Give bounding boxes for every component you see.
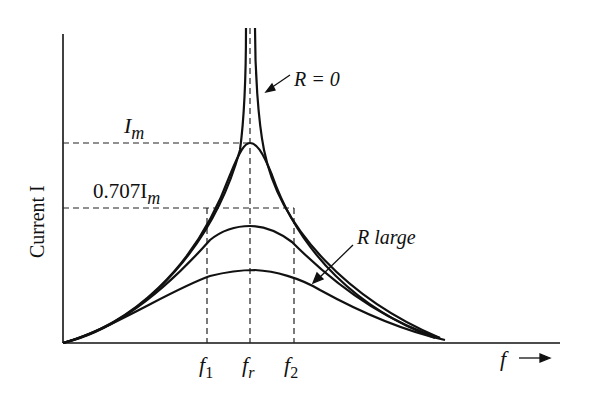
label-im707: 0.707Im	[93, 179, 160, 208]
label-r-zero: R = 0	[293, 68, 340, 90]
resonance-diagram: R = 0 R large Im 0.707Im Current I f1 fr…	[0, 0, 599, 401]
tick-f2: f2	[284, 352, 298, 381]
label-im: Im	[123, 113, 144, 143]
r-zero-arrowhead	[266, 84, 275, 92]
curve-r-large	[63, 270, 445, 343]
f-arrowhead	[540, 354, 550, 362]
tick-fr: fr	[242, 352, 255, 381]
label-r-large: R large	[356, 226, 416, 249]
tick-f1: f1	[199, 352, 213, 381]
y-axis-label: Current I	[26, 185, 48, 258]
x-axis-label: f	[500, 346, 509, 371]
r-large-arrowhead	[313, 273, 323, 283]
